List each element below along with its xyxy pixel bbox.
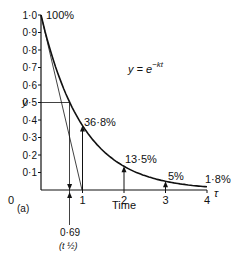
y-tick-label: 0·1 xyxy=(23,167,38,178)
equation: y = e−kt xyxy=(127,60,164,75)
half-life-label: (t ½) xyxy=(59,241,78,251)
y-tick-label: 0·6 xyxy=(23,80,38,91)
half-life-value: 0·69 xyxy=(60,227,80,238)
annotation-label: 1·8% xyxy=(205,173,231,185)
decay-chart: 0·10·20·30·40·50·60·70·80·91·0 01234 y T… xyxy=(0,0,243,257)
y-tick-label: 0·7 xyxy=(23,62,38,73)
x-tick-label: 0 xyxy=(8,194,14,206)
percent-annotations: 100%36·8%13·5%5%1·8% xyxy=(46,9,231,185)
y-tick-label: 1·0 xyxy=(23,10,38,21)
y-tick-label: 0·2 xyxy=(23,150,38,161)
annotation-label: 5% xyxy=(168,170,184,182)
y-tick-label: 0·8 xyxy=(23,45,38,56)
x-ticks: 01234 xyxy=(8,190,210,206)
annotation-label: 13·5% xyxy=(125,153,157,165)
x-tick-label: 1 xyxy=(79,194,85,206)
annotation-label: 36·8% xyxy=(84,116,116,128)
x-axis-label: Time xyxy=(112,199,136,211)
x-tick-label: 4 xyxy=(204,194,210,206)
x-unit-label: τ xyxy=(214,187,219,199)
decay-curve xyxy=(41,15,207,187)
y-tick-label: 0·4 xyxy=(23,115,38,126)
y-ticks: 0·10·20·30·40·50·60·70·80·91·0 xyxy=(23,10,41,179)
y-tick-label: 0·3 xyxy=(23,132,38,143)
panel-label: (a) xyxy=(17,203,29,214)
x-tick-label: 3 xyxy=(162,194,168,206)
y-tick-label: 0·9 xyxy=(23,27,38,38)
annotation-label: 100% xyxy=(46,9,74,21)
